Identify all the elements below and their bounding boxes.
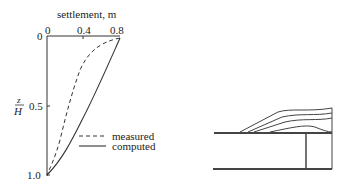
x-tick-0: 0 <box>45 24 51 36</box>
legend-computed: computed <box>112 140 156 152</box>
series-measured <box>47 38 120 175</box>
y-axis-label-den: H <box>13 105 23 117</box>
y-axis-label-num: z <box>16 95 21 105</box>
series-computed <box>47 38 120 175</box>
y-tick-0: 0 <box>37 30 43 42</box>
x-axis-label: settlement, m <box>57 8 117 20</box>
x-tick-1: 0.4 <box>77 24 91 36</box>
y-tick-2: 1.0 <box>27 169 41 181</box>
embankment-diagram <box>213 108 332 169</box>
x-tick-2: 0.8 <box>110 24 124 36</box>
y-tick-1: 0.5 <box>29 100 43 112</box>
settlement-chart: settlement, m 0 0.4 0.8 0 0.5 1.0 z H me… <box>0 0 346 187</box>
